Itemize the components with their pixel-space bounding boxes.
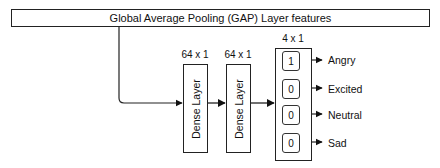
dense-layer-2-shape: 64 x 1 [218, 49, 258, 60]
class-label-excited: Excited [328, 83, 362, 95]
class-label-angry: Angry [328, 54, 355, 66]
gap-features-label: Global Average Pooling (GAP) Layer featu… [110, 12, 332, 24]
gap-features-box: Global Average Pooling (GAP) Layer featu… [11, 9, 430, 27]
dense-layer-1: Dense Layer [183, 64, 208, 153]
output-shape: 4 x 1 [273, 33, 313, 44]
dense-layer-2-label: Dense Layer [233, 79, 245, 139]
output-cell-excited: 0 [282, 79, 300, 99]
output-cell-neutral: 0 [282, 105, 300, 125]
dense-layer-2: Dense Layer [226, 64, 251, 153]
output-cell-angry: 1 [282, 51, 300, 71]
output-cell-sad: 0 [282, 133, 300, 153]
class-label-neutral: Neutral [328, 109, 362, 121]
dense-layer-1-label: Dense Layer [190, 79, 202, 139]
class-label-sad: Sad [328, 137, 347, 149]
dense-layer-1-shape: 64 x 1 [175, 49, 215, 60]
